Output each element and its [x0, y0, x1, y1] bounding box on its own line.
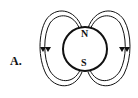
south-pole-label: S [81, 57, 87, 68]
arrow-down-icon-left-inner [45, 47, 51, 52]
north-pole-label: N [81, 28, 89, 39]
magnet-field-diagram: N S [0, 0, 138, 98]
arrow-down-icon-right-inner [119, 47, 125, 52]
